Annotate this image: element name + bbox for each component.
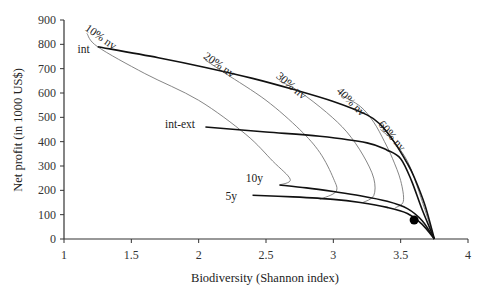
series-40-nv	[341, 95, 403, 207]
x-tick-label: 3.5	[393, 248, 408, 262]
series-10y	[279, 185, 434, 239]
x-tick-label: 3	[330, 248, 336, 262]
y-tick-label: 700	[38, 62, 56, 76]
y-tick-label: 400	[38, 135, 56, 149]
series-20-nv	[205, 60, 337, 199]
y-tick-label: 300	[38, 159, 56, 173]
y-axis-label: Net profit (in 1000 US$)	[11, 68, 25, 192]
series-5y	[253, 195, 435, 239]
series-group	[87, 33, 434, 239]
y-tick-label: 500	[38, 110, 56, 124]
annotation-10y: 10y	[246, 172, 263, 185]
y-tick-label: 900	[38, 13, 56, 27]
series-10-nv	[87, 33, 290, 185]
x-tick-label: 2	[196, 248, 202, 262]
annotation-5y: 5y	[226, 190, 238, 203]
x-tick-label: 4	[465, 248, 471, 262]
annotations: 10% nv20% nv30% nv40% nv60% nvintint-ext…	[77, 22, 408, 204]
x-axis-label: Biodiversity (Shannon index)	[191, 271, 339, 285]
y-tick-label: 800	[38, 37, 56, 51]
annotation-40-nv: 40% nv	[335, 85, 369, 119]
x-tick-label: 1	[61, 248, 67, 262]
annotation-int-ext: int-ext	[165, 118, 196, 130]
x-tick-label: 1.5	[124, 248, 139, 262]
x-tick-label: 2.5	[259, 248, 274, 262]
y-tick-label: 200	[38, 183, 56, 197]
annotation-int: int	[77, 43, 90, 55]
annotation-20-nv: 20% nv	[202, 50, 238, 80]
optimum-marker	[410, 216, 419, 225]
y-tick-label: 600	[38, 86, 56, 100]
y-tick-label: 0	[50, 232, 56, 246]
chart: 010020030040050060070080090011.522.533.5…	[0, 0, 484, 291]
y-tick-label: 100	[38, 208, 56, 222]
